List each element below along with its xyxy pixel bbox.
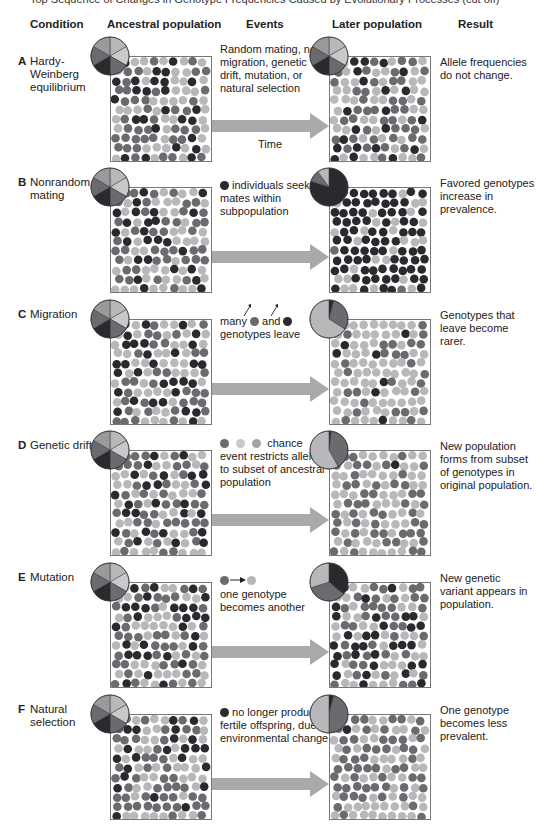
row-a: A Hardy-Weinberg equilibrium Random mati… [0, 28, 536, 159]
time-arrow-icon [212, 639, 330, 665]
later-genotype-pie [309, 299, 349, 339]
medium-genotype-dot-icon [250, 317, 259, 326]
row-letter: F [18, 703, 25, 715]
row-letter: D [18, 439, 26, 451]
result-text: One genotype becomes less prevalent. [440, 704, 536, 743]
result-text: Favored genotypes increase in prevalence… [440, 177, 536, 216]
dark-genotype-dot-icon [220, 181, 229, 190]
later-genotype-pie [309, 36, 349, 76]
result-text: New population forms from subset of geno… [440, 440, 536, 492]
ancestral-genotype-pie [90, 562, 130, 602]
later-genotype-pie [309, 694, 349, 734]
time-arrow-icon [212, 507, 330, 533]
row-e: E Mutation one genotype becomes another … [0, 554, 536, 685]
events-suffix: chance [267, 437, 302, 449]
events-text: Random mating, no migration, genetic dri… [220, 43, 316, 94]
row-d: D Genetic drift chance event restricts a… [0, 422, 536, 553]
row-c: C Migration many and genotypes leave Gen… [0, 291, 536, 422]
time-arrow-icon [212, 113, 330, 139]
later-genotype-pie [309, 167, 349, 207]
row-letter: E [18, 571, 26, 583]
time-arrow-icon [212, 771, 330, 797]
row-letter: B [18, 176, 26, 188]
result-text: Genotypes that leave become rarer. [440, 309, 536, 348]
result-text: New genetic variant appears in populatio… [440, 572, 536, 611]
later-genotype-pie [309, 430, 349, 470]
top-caption: Top Sequence of Changes in Genotype Freq… [30, 0, 499, 5]
events-text: genotypes leave [220, 328, 300, 340]
row-letter: A [18, 55, 26, 67]
later-genotype-pie [309, 562, 349, 602]
ancestral-genotype-pie [90, 694, 130, 734]
dark-genotype-dot-icon [283, 317, 292, 326]
ancestral-genotype-pie [90, 299, 130, 339]
row-b: B Nonrandom mating individuals seek mate… [0, 159, 536, 290]
ancestral-genotype-pie [90, 36, 130, 76]
light-medium-genotype-dot-icon [252, 439, 261, 448]
time-label: Time [258, 138, 282, 150]
result-text: Allele frequencies do not change. [440, 56, 536, 82]
events-text: one genotype becomes another [220, 588, 305, 613]
dark-genotype-dot-icon [220, 708, 229, 717]
ancestral-genotype-pie [90, 430, 130, 470]
ancestral-genotype-pie [90, 167, 130, 207]
time-arrow-icon [212, 376, 330, 402]
light-genotype-dot-icon [236, 439, 245, 448]
time-arrow-icon [212, 244, 330, 270]
medium-genotype-dot-icon [220, 439, 229, 448]
row-f: F Natural selection no longer produces f… [0, 686, 536, 817]
row-letter: C [18, 308, 26, 320]
events-text: individuals seek mates within subpopulat… [220, 179, 310, 217]
